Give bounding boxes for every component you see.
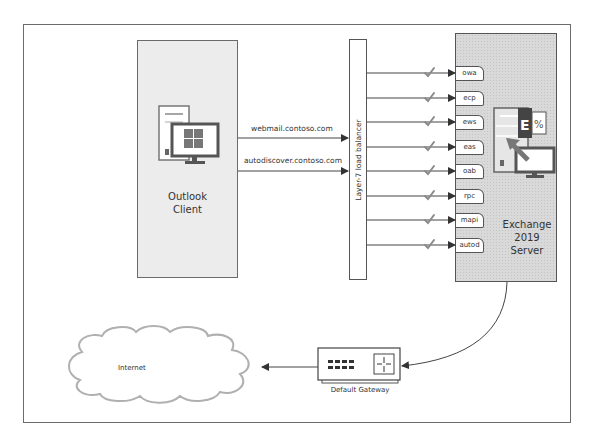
check-icons [425, 68, 434, 248]
internet-label: Internet [118, 364, 146, 372]
server-to-gateway-arrow [402, 282, 507, 366]
connectors [0, 0, 592, 440]
router-icon [318, 348, 400, 383]
gateway-label: Default Gateway [318, 386, 402, 394]
cloud-icon [69, 326, 249, 403]
